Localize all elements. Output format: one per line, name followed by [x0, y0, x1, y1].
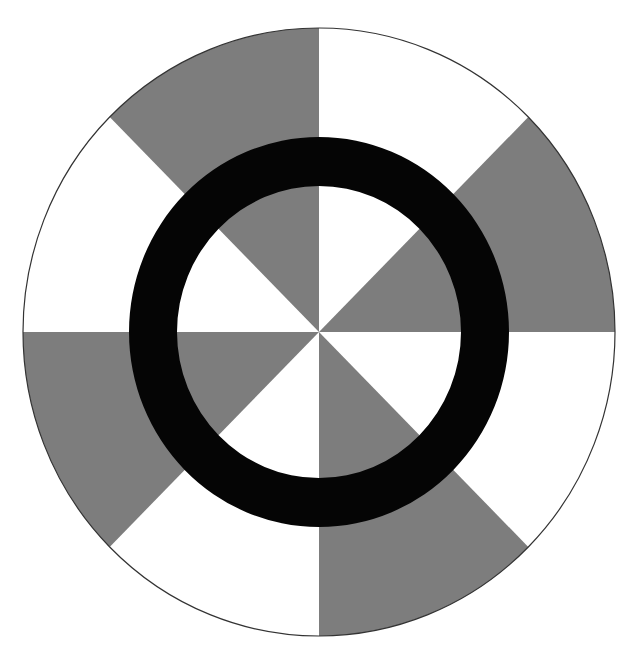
sector-ring-diagram: Circle divided into 8 equal sectors alte…: [0, 0, 637, 652]
sector-group: [23, 28, 615, 636]
diagram-canvas: [0, 0, 637, 652]
